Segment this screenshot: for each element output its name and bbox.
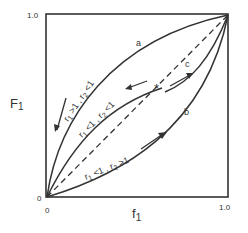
y-tick-origin: 0 xyxy=(37,194,42,203)
curve-b-label: b xyxy=(184,107,189,117)
curve-a-label: a xyxy=(136,38,141,48)
curve-c-label: c xyxy=(185,59,190,69)
arrow-curve-a-icon xyxy=(54,98,66,132)
arrow-azeotrope-left-icon xyxy=(125,81,147,90)
y-tick-top: 1.0 xyxy=(27,11,39,20)
azeotrope-marker: * xyxy=(154,81,159,96)
condition-label-curve-b: r1 <1 , r2 >1 xyxy=(83,155,131,183)
composition-diagram: * a c b r1 >1 , r2 <1 r1 <1 , r2 <1 r1 <… xyxy=(0,0,248,233)
x-tick-origin: 0 xyxy=(45,206,50,215)
arrow-curve-b-icon xyxy=(141,132,167,149)
x-tick-right: 1.0 xyxy=(219,203,231,212)
y-axis-label: F1 xyxy=(10,96,24,112)
x-axis-label: f1 xyxy=(132,206,142,223)
arrow-curve-c-icon xyxy=(170,73,193,86)
curve-c xyxy=(165,15,228,92)
